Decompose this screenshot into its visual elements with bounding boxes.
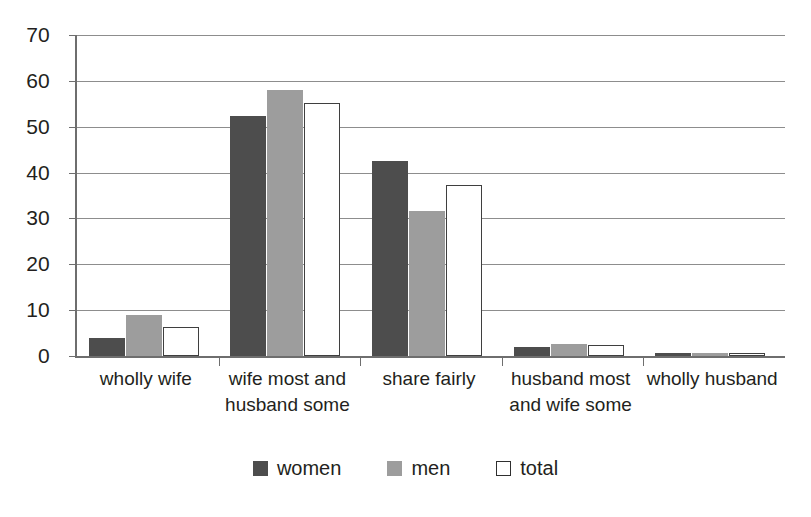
y-axis-tick-mark	[69, 310, 77, 311]
bar-group	[643, 35, 785, 356]
x-axis-category-label: husband mostand wife some	[500, 366, 642, 418]
x-axis-category-labels: wholly wifewife most andhusband someshar…	[75, 366, 783, 436]
y-axis-tick-label: 20	[6, 253, 50, 274]
category-label-line: share fairly	[358, 366, 500, 392]
legend-item-label: women	[277, 458, 341, 478]
filled-gray-square-icon	[387, 461, 402, 476]
legend-item-men[interactable]: men	[387, 458, 450, 478]
y-axis-tick-mark	[69, 127, 77, 128]
x-axis-category-label: wholly husband	[641, 366, 783, 392]
bar-group	[502, 35, 644, 356]
y-axis: 706050403020100	[0, 0, 50, 517]
bar-women-3	[514, 347, 550, 356]
y-axis-tick-mark	[69, 356, 77, 357]
category-label-line: and wife some	[500, 392, 642, 418]
y-axis-tick-mark	[69, 264, 77, 265]
x-axis-tick-mark	[643, 356, 644, 366]
bar-women-2	[372, 161, 408, 356]
y-axis-tick-mark	[69, 35, 77, 36]
x-axis-tick-mark	[219, 356, 220, 366]
y-axis-tick-mark	[69, 218, 77, 219]
y-axis-tick-label: 10	[6, 299, 50, 320]
bar-total-2	[446, 185, 482, 356]
bar-men-3	[551, 344, 587, 356]
category-label-line: wholly wife	[75, 366, 217, 392]
outlined-white-square-icon	[496, 461, 511, 476]
legend-item-total[interactable]: total	[496, 458, 558, 478]
bar-group	[219, 35, 361, 356]
y-axis-tick-mark	[69, 173, 77, 174]
bar-total-4	[729, 353, 765, 356]
bar-men-2	[409, 211, 445, 356]
y-axis-tick-label: 60	[6, 70, 50, 91]
filled-dark-square-icon	[253, 461, 268, 476]
bar-men-0	[126, 315, 162, 356]
plot-area	[75, 35, 785, 358]
x-axis-tick-mark	[360, 356, 361, 366]
x-axis-tick-mark	[502, 356, 503, 366]
legend-item-women[interactable]: women	[253, 458, 341, 478]
legend-item-label: total	[520, 458, 558, 478]
y-axis-tick-label: 0	[6, 345, 50, 366]
bar-total-3	[588, 345, 624, 356]
x-axis-category-label: share fairly	[358, 366, 500, 392]
bar-group	[77, 35, 219, 356]
x-axis-category-label: wife most andhusband some	[217, 366, 359, 418]
bar-women-4	[655, 353, 691, 356]
bar-total-0	[163, 327, 199, 356]
bar-group	[360, 35, 502, 356]
category-label-line: wholly husband	[641, 366, 783, 392]
x-axis-category-label: wholly wife	[75, 366, 217, 392]
y-axis-tick-label: 40	[6, 162, 50, 183]
bar-women-1	[230, 116, 266, 356]
category-label-line: husband most	[500, 366, 642, 392]
y-axis-tick-mark	[69, 81, 77, 82]
bar-total-1	[304, 103, 340, 356]
legend-item-label: men	[411, 458, 450, 478]
bar-men-4	[692, 353, 728, 356]
bar-men-1	[267, 90, 303, 356]
bar-chart: 706050403020100 wholly wifewife most and…	[0, 0, 811, 517]
bar-women-0	[89, 338, 125, 356]
chart-legend: womenmentotal	[0, 458, 811, 478]
y-axis-tick-label: 50	[6, 116, 50, 137]
y-axis-tick-label: 30	[6, 207, 50, 228]
category-label-line: wife most and	[217, 366, 359, 392]
y-axis-tick-label: 70	[6, 24, 50, 45]
category-label-line: husband some	[217, 392, 359, 418]
